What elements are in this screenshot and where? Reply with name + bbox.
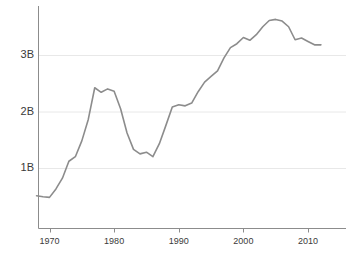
x-axis-tick-label: 1980 xyxy=(94,237,134,246)
line-chart: 1B2B3B 19701980199020002010 xyxy=(0,0,357,254)
x-axis-tick-label: 1970 xyxy=(30,237,70,246)
y-axis-tick-label: 2B xyxy=(8,106,34,117)
x-axis-tick-label: 2000 xyxy=(223,237,263,246)
y-axis-tick-label: 1B xyxy=(8,162,34,173)
data-line xyxy=(37,19,321,197)
y-axis-tick-label: 3B xyxy=(8,49,34,60)
x-axis-tick-label: 1990 xyxy=(159,237,199,246)
gridlines xyxy=(39,56,347,169)
plot-area xyxy=(0,0,357,254)
x-axis-ticks xyxy=(51,229,309,233)
x-axis-tick-label: 2010 xyxy=(288,237,328,246)
